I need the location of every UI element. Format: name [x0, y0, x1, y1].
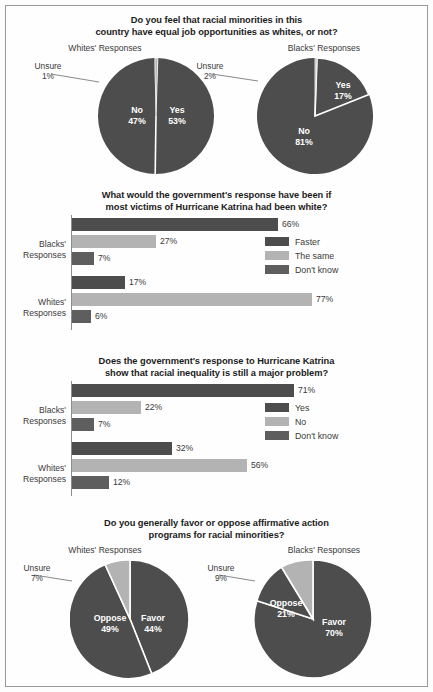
pie-label-no: No: [298, 126, 310, 136]
section-4-left-group-label: Whites' Responses: [0, 545, 210, 555]
row-label-whites: Whites' Responses: [4, 297, 66, 318]
section-job-opportunities: Do you feel that racial minorities in th…: [0, 14, 433, 38]
bar-whites-dont-know: [72, 310, 91, 323]
pie-value-favor: 70%: [325, 628, 343, 638]
section-1-title-line1: Do you feel that racial minorities in th…: [26, 14, 407, 26]
pie-label-oppose: Oppose: [94, 613, 127, 623]
bar-value-whites-yes: 32%: [176, 442, 193, 455]
bar-chart-katrina-white-victims: Blacks' Responses Whites' Responses 66% …: [0, 215, 433, 330]
legend-label-the-same: The same: [295, 251, 334, 261]
pie-chart-svg: Oppose 21% Favor 70%: [253, 559, 373, 679]
pie-value-no: 81%: [295, 137, 313, 147]
callout-unsure-whites-value: 7%: [8, 573, 66, 583]
pie-affirmative-action-whites: Oppose 49% Favor 44%: [70, 559, 190, 679]
callout-unsure-blacks-label: Unsure: [180, 61, 240, 71]
bar-value-blacks-yes: 71%: [298, 384, 315, 397]
pie-label-no: No: [131, 105, 143, 115]
section-1-right-group-label: Blacks' Responses: [215, 43, 433, 53]
pie-label-oppose: Oppose: [270, 598, 303, 608]
row-label-whites: Whites' Responses: [4, 463, 66, 484]
pie-divider-1: [155, 116, 156, 174]
bar-whites-the-same: [72, 293, 312, 306]
pie-value-yes: 17%: [334, 91, 352, 101]
bar-value-whites-faster: 17%: [129, 276, 146, 289]
section-2-title-line1: What would the government's response hav…: [26, 189, 407, 201]
row-label-blacks-line1: Blacks': [4, 239, 66, 250]
bar-blacks-dont-know: [72, 418, 94, 431]
pie-chart-svg: Oppose 49% Favor 44%: [70, 559, 190, 679]
section-2-title-line2: most victims of Hurricane Katrina had be…: [26, 201, 407, 213]
bar-chart-katrina-racial-inequality: Blacks' Responses Whites' Responses 71% …: [0, 381, 433, 496]
callout-unsure-whites-value: 1%: [18, 71, 78, 81]
section-katrina-racial-inequality: Does the government's response to Hurric…: [0, 355, 433, 379]
row-label-blacks-line1: Blacks': [4, 405, 66, 416]
legend-label-no: No: [295, 417, 306, 427]
legend-swatch-the-same: [265, 251, 289, 260]
pie-label-yes: Yes: [335, 80, 350, 90]
legend-label-dont-know: Don't know: [295, 431, 338, 441]
row-label-blacks-line2: Responses: [4, 250, 66, 261]
legend-item-the-same: The same: [265, 249, 338, 262]
legend-item-dont-know: Don't know: [265, 263, 338, 276]
legend-katrina-racial-inequality: Yes No Don't know: [265, 401, 338, 443]
pie-chart-svg: Yes 17% No 81%: [256, 57, 374, 175]
callout-unsure-whites-label: Unsure: [18, 61, 78, 71]
section-katrina-white-victims: What would the government's response hav…: [0, 189, 433, 213]
bar-blacks-faster: [72, 218, 278, 231]
bar-value-whites-the-same: 77%: [316, 293, 333, 306]
legend-item-yes: Yes: [265, 401, 338, 414]
pie-label-favor: Favor: [322, 617, 347, 627]
pie-value-no: 47%: [128, 116, 146, 126]
row-label-whites-line2: Responses: [4, 474, 66, 485]
section-1-title: Do you feel that racial minorities in th…: [0, 14, 433, 38]
bar-blacks-no: [72, 401, 141, 414]
callout-unsure-whites-label: Unsure: [8, 563, 66, 573]
section-4-title-line2: programs for racial minorities?: [26, 529, 407, 541]
section-4-title-line1: Do you generally favor or oppose affirma…: [26, 517, 407, 529]
pie-value-yes: 53%: [168, 116, 186, 126]
row-label-whites-line2: Responses: [4, 308, 66, 319]
section-3-title: Does the government's response to Hurric…: [0, 355, 433, 379]
pie-value-oppose: 21%: [277, 609, 295, 619]
pie-value-favor: 44%: [144, 624, 162, 634]
callout-unsure-blacks: Unsure 9%: [192, 563, 250, 583]
bar-value-blacks-dont-know: 7%: [98, 252, 110, 265]
legend-label-yes: Yes: [295, 403, 309, 413]
callout-unsure-blacks-label: Unsure: [192, 563, 250, 573]
pie-value-oppose: 49%: [101, 624, 119, 634]
row-label-whites-line1: Whites': [4, 463, 66, 474]
bar-value-blacks-faster: 66%: [282, 218, 299, 231]
infographic-page: Do you feel that racial minorities in th…: [0, 0, 433, 692]
section-4-right-group-label: Blacks' Responses: [215, 545, 433, 555]
section-3-title-line2: show that racial inequality is still a m…: [26, 367, 407, 379]
legend-label-faster: Faster: [295, 237, 320, 247]
callout-unsure-blacks-value: 9%: [192, 573, 250, 583]
legend-swatch-no: [265, 417, 289, 426]
bar-value-blacks-dont-know: 7%: [98, 418, 110, 431]
section-3-title-line1: Does the government's response to Hurric…: [26, 355, 407, 367]
section-1-left-group-label: Whites' Responses: [0, 43, 210, 53]
pie-label-yes: Yes: [169, 105, 184, 115]
bar-value-whites-dont-know: 12%: [113, 476, 130, 489]
callout-unsure-blacks-value: 2%: [180, 71, 240, 81]
legend-item-dont-know: Don't know: [265, 429, 338, 442]
section-4-title: Do you generally favor or oppose affirma…: [0, 517, 433, 541]
section-1-title-line2: country have equal job opportunities as …: [26, 26, 407, 38]
bar-value-whites-dont-know: 6%: [95, 310, 107, 323]
legend-swatch-dont-know: [265, 265, 289, 274]
bar-whites-faster: [72, 276, 125, 289]
bar-blacks-yes: [72, 384, 294, 397]
row-label-whites-line1: Whites': [4, 297, 66, 308]
section-2-title: What would the government's response hav…: [0, 189, 433, 213]
bar-value-blacks-no: 22%: [145, 401, 162, 414]
bar-whites-dont-know: [72, 476, 109, 489]
legend-swatch-dont-know: [265, 431, 289, 440]
pie-affirmative-action-blacks: Oppose 21% Favor 70%: [253, 559, 373, 679]
callout-unsure-blacks: Unsure 2%: [180, 61, 240, 81]
legend-swatch-faster: [265, 237, 289, 246]
row-label-blacks-line2: Responses: [4, 416, 66, 427]
legend-katrina-white-victims: Faster The same Don't know: [265, 235, 338, 277]
legend-label-dont-know: Don't know: [295, 265, 338, 275]
legend-item-faster: Faster: [265, 235, 338, 248]
legend-item-no: No: [265, 415, 338, 428]
